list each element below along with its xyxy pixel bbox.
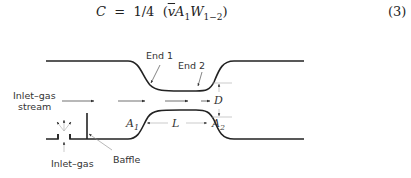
baffle-leader (89, 134, 112, 150)
label-end1: End 1 (146, 50, 173, 61)
label-inlet-gas: Inlet–gas (51, 158, 94, 169)
venturi-diagram: D L A1 A2 End 1 End 2 Baffle Inlet–gas s… (0, 0, 411, 178)
label-end2: End 2 (178, 60, 205, 71)
label-a2: A2 (211, 117, 225, 132)
end1-leader (151, 65, 160, 83)
label-inlet-stream-1: Inlet–gas (13, 90, 56, 101)
top-wall (46, 61, 304, 91)
label-baffle: Baffle (113, 154, 141, 165)
end2-leader (198, 72, 202, 86)
label-d: D (213, 94, 223, 107)
inlet-spray-icon (57, 120, 71, 131)
label-l: L (171, 117, 179, 130)
label-inlet-stream-2: stream (18, 101, 51, 112)
label-a1: A1 (125, 117, 139, 132)
